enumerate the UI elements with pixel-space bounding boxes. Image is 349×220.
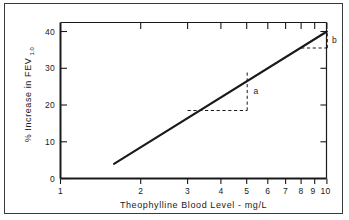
x-tick-label: 6: [265, 186, 270, 196]
plot-axes: [61, 23, 327, 179]
x-tick-label: 5: [244, 186, 249, 196]
x-tick-label: 1: [58, 186, 63, 196]
annotation-a-label: a: [254, 86, 259, 96]
y-tick-label: 0: [50, 174, 55, 184]
y-axis-title-group: % Increase in FEV 1.0: [23, 46, 35, 142]
x-tick-label: 2: [138, 186, 143, 196]
chart-plot: 1 2 3 4 5 6 7 8 9 10 0 10 20 30 40 a: [0, 0, 349, 220]
x-tick-label: 4: [218, 186, 223, 196]
figure-container: 1 2 3 4 5 6 7 8 9 10 0 10 20 30 40 a: [0, 0, 349, 220]
x-axis-ticks-top: [141, 23, 327, 30]
x-axis-tick-labels: 1 2 3 4 5 6 7 8 9 10: [58, 186, 331, 196]
x-tick-label: 7: [283, 186, 288, 196]
y-tick-label: 30: [45, 63, 55, 73]
y-axis-tick-labels: 0 10 20 30 40: [45, 27, 55, 184]
annotation-a-triangle: [188, 70, 248, 110]
y-tick-label: 10: [45, 137, 55, 147]
x-tick-label: 10: [320, 186, 330, 196]
y-tick-label: 40: [45, 27, 55, 37]
x-tick-label: 9: [310, 186, 315, 196]
dose-response-line: [114, 32, 327, 164]
x-axis-title: Theophylline Blood Level - mg/L: [120, 200, 267, 210]
y-axis-title-subscript: 1.0: [29, 46, 35, 55]
y-tick-label: 20: [45, 100, 55, 110]
annotation-b-label: b: [332, 35, 337, 45]
y-axis-title: % Increase in FEV: [23, 58, 33, 143]
x-tick-label: 3: [185, 186, 190, 196]
x-tick-label: 8: [299, 186, 304, 196]
